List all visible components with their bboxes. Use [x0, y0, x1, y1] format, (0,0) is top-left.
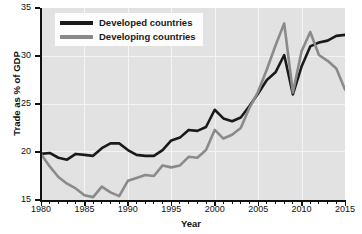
y-axis-line [40, 8, 42, 201]
x-tick-minor [275, 201, 276, 204]
x-tick-minor [232, 201, 233, 204]
x-tick-minor [188, 201, 189, 204]
x-tick-minor [58, 201, 59, 204]
chart-figure: 1520253035 19801985199019952000200520102… [0, 0, 362, 234]
y-axis-title: Trade as % of GDP [11, 34, 22, 154]
legend-swatch-developed [60, 21, 93, 25]
legend-swatch-developing [60, 35, 93, 39]
x-tick-minor [310, 201, 311, 204]
x-tick-minor [145, 201, 146, 204]
x-tick-minor [266, 201, 267, 204]
x-tick-label: 1985 [64, 204, 104, 214]
y-tick-label: 15 [5, 195, 31, 204]
legend-label-developed: Developed countries [99, 17, 192, 28]
y-tick [35, 103, 40, 105]
x-tick-label: 2015 [325, 204, 362, 214]
x-tick-label: 1990 [108, 204, 148, 214]
y-tick-label: 35 [5, 3, 31, 12]
legend-item-developed: Developed countries [60, 17, 196, 28]
x-tick-label: 2010 [282, 204, 322, 214]
y-tick [35, 199, 40, 201]
x-tick-label: 2000 [195, 204, 235, 214]
x-tick-minor [318, 201, 319, 204]
x-tick-minor [101, 201, 102, 204]
series-line-developing [41, 23, 345, 197]
x-tick-minor [223, 201, 224, 204]
series-line-developed [41, 35, 345, 160]
x-tick-minor [93, 201, 94, 204]
legend-item-developing: Developing countries [60, 31, 196, 42]
x-tick-minor [179, 201, 180, 204]
x-tick-minor [136, 201, 137, 204]
x-tick-minor [49, 201, 50, 204]
chart-legend: Developed countries Developing countries [55, 13, 203, 46]
x-tick-label: 2005 [238, 204, 278, 214]
x-tick-label: 1980 [21, 204, 61, 214]
x-axis-title: Year [131, 218, 251, 229]
y-tick [35, 55, 40, 57]
x-tick-label: 1995 [151, 204, 191, 214]
y-tick [35, 151, 40, 153]
y-tick [35, 7, 40, 9]
legend-label-developing: Developing countries [99, 31, 196, 42]
